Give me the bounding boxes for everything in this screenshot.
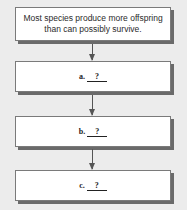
step-b-blank: ? [87, 127, 107, 137]
arrow-down-icon [92, 44, 93, 60]
step-c-box: c. ? [15, 170, 171, 201]
arrow-down-icon [92, 149, 93, 169]
step-b-box: b. ? [15, 116, 171, 147]
step-b-label: b. [79, 127, 85, 136]
step-c-label: c. [79, 181, 85, 190]
step-a-box: a. ? [15, 61, 171, 92]
arrow-down-icon [92, 95, 93, 115]
step-a-label: a. [79, 72, 85, 81]
start-box: Most species produce more offspring than… [15, 7, 171, 41]
start-text: Most species produce more offspring than… [22, 13, 164, 35]
step-c-blank: ? [87, 181, 107, 191]
step-a-blank: ? [87, 72, 107, 82]
